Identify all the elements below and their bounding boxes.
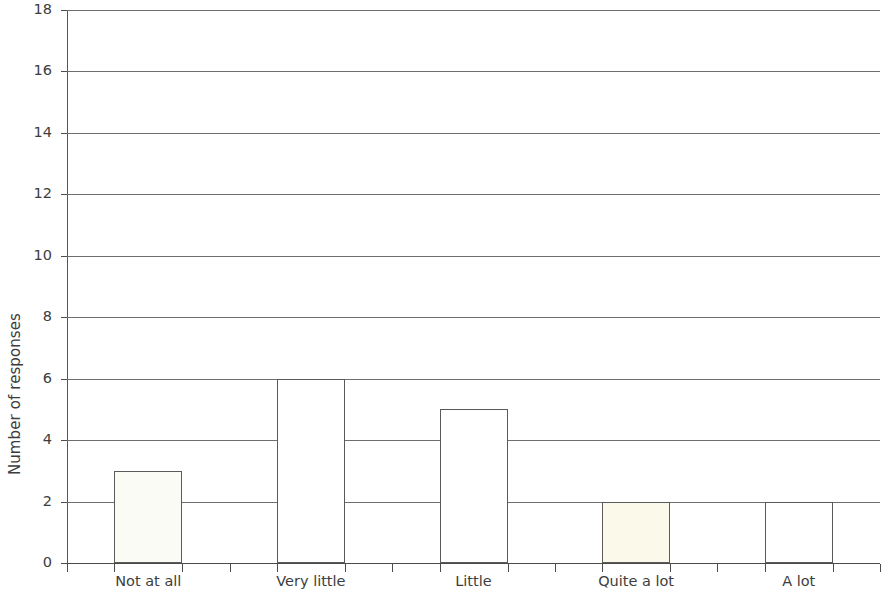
x-axis-tick [880, 564, 881, 572]
x-axis-tick-label: Not at all [67, 574, 230, 590]
bar [602, 502, 670, 563]
x-axis-tick [555, 564, 556, 572]
y-axis-tick-label: 6 [0, 371, 52, 386]
y-axis-tick-label: 2 [0, 494, 52, 509]
y-axis-tick-label: 14 [0, 125, 52, 140]
x-axis-tick-label: Very little [230, 574, 393, 590]
x-axis-tick [717, 564, 718, 572]
x-axis-tick [670, 564, 671, 572]
gridline [67, 317, 880, 318]
gridline [67, 10, 880, 11]
x-axis-tick [602, 564, 603, 572]
x-axis-tick [114, 564, 115, 572]
bar [277, 379, 345, 563]
x-axis-tick [182, 564, 183, 572]
x-axis-tick-label: A lot [717, 574, 880, 590]
x-axis-tick [67, 564, 68, 572]
y-axis-tick-label: 18 [0, 2, 52, 17]
x-axis-tick [230, 564, 231, 572]
x-axis-line [67, 563, 880, 564]
gridline [67, 379, 880, 380]
bar [440, 409, 508, 563]
y-axis-tick-label: 8 [0, 309, 52, 324]
bar-chart: Number of responses 024681012141618 Not … [0, 0, 888, 600]
x-axis-tick-label: Quite a lot [555, 574, 718, 590]
x-axis-tick [277, 564, 278, 572]
gridline [67, 133, 880, 134]
bar [114, 471, 182, 563]
y-axis-tick-label: 12 [0, 186, 52, 201]
x-axis-tick [345, 564, 346, 572]
y-axis-tick-label: 4 [0, 432, 52, 447]
x-axis-tick [833, 564, 834, 572]
gridline [67, 194, 880, 195]
y-axis-tick-label: 16 [0, 63, 52, 78]
x-axis-tick [508, 564, 509, 572]
gridline [67, 71, 880, 72]
x-axis-tick-label: Little [392, 574, 555, 590]
y-axis-title: Number of responses [6, 294, 24, 494]
y-axis-tick-label: 10 [0, 248, 52, 263]
y-axis-tick-label: 0 [0, 555, 52, 570]
x-axis-tick [765, 564, 766, 572]
x-axis-tick [392, 564, 393, 572]
x-axis-tick [440, 564, 441, 572]
plot-area [67, 10, 880, 563]
bar [765, 502, 833, 563]
gridline [67, 256, 880, 257]
